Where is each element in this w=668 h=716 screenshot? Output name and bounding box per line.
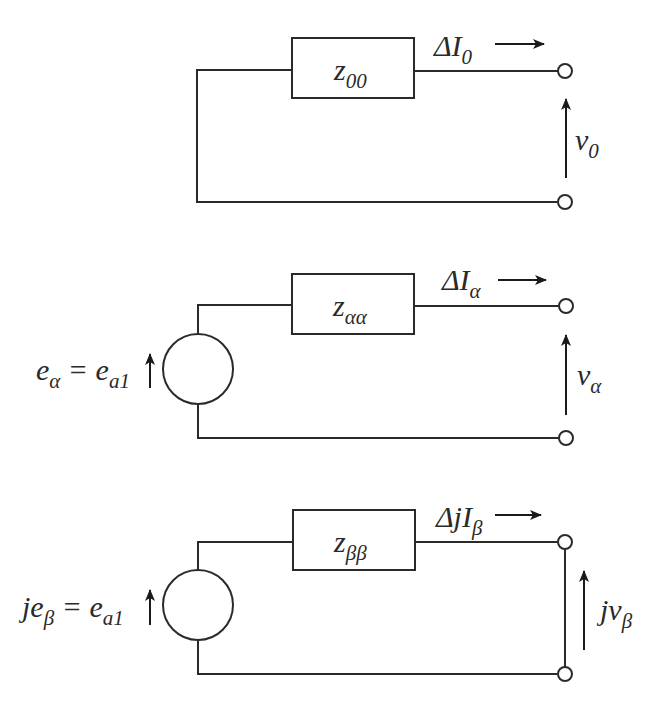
terminal-top [558,535,572,549]
current-label: ΔI0 [433,29,473,69]
terminal-bottom [558,195,572,209]
voltage-label: vα [577,358,602,398]
terminal-top [558,64,572,78]
source-label: eα = ea1 [36,353,130,393]
circuit-diagram: z00 ΔI0 v0 eα = ea1 zαα ΔIα [0,0,668,716]
voltage-label: v0 [575,123,599,163]
wire-bottom [198,640,558,674]
zero-sequence-circuit: z00 ΔI0 v0 [197,29,599,209]
terminal-top [559,299,573,313]
wire-bottom [198,404,559,438]
voltage-label: jvβ [596,593,633,633]
alpha-sequence-circuit: eα = ea1 zαα ΔIα vα [36,263,602,445]
voltage-source-icon [163,570,233,640]
terminal-bottom [558,667,572,681]
wire-top-left [198,305,292,334]
current-label: ΔIα [441,263,482,303]
wire-top-left [198,542,292,570]
source-label: jeβ = ea1 [18,590,124,630]
terminal-bottom [559,431,573,445]
current-label: ΔjIβ [435,500,483,540]
beta-sequence-circuit: jeβ = ea1 zββ ΔjIβ jvβ [18,500,633,681]
voltage-source-icon [163,334,233,404]
